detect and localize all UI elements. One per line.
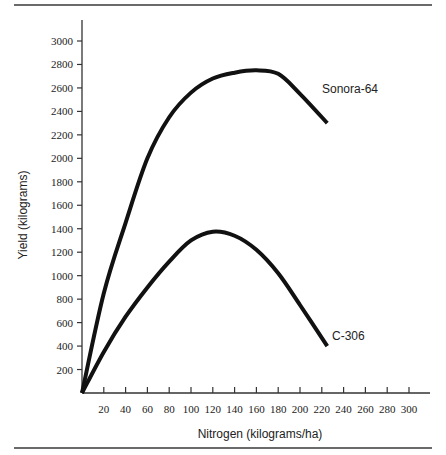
x-tick-label: 40 — [120, 403, 132, 415]
y-tick-label: 600 — [57, 317, 74, 329]
y-tick-label: 2200 — [51, 129, 74, 141]
y-tick-label: 1200 — [51, 246, 74, 258]
x-tick-label: 80 — [164, 403, 176, 415]
y-tick-label: 2000 — [51, 152, 74, 164]
x-tick-label: 140 — [226, 403, 243, 415]
x-tick-label: 160 — [248, 403, 265, 415]
y-tick-label: 800 — [57, 293, 74, 305]
y-axis-ticks: 2004006008001000120014001600180020002200… — [51, 35, 82, 376]
x-tick-label: 180 — [270, 403, 287, 415]
x-axis-ticks: 2040608010012014016018020022024026028030… — [98, 387, 417, 415]
yield-chart: 2004006008001000120014001600180020002200… — [0, 0, 446, 455]
x-tick-label: 240 — [335, 403, 352, 415]
y-tick-label: 1400 — [51, 223, 74, 235]
axes — [82, 20, 430, 393]
y-tick-label: 1600 — [51, 199, 74, 211]
series-label-sonora-64: Sonora-64 — [322, 82, 378, 96]
x-tick-label: 100 — [183, 403, 200, 415]
y-tick-label: 2600 — [51, 82, 74, 94]
x-tick-label: 300 — [401, 403, 418, 415]
x-tick-label: 20 — [98, 403, 110, 415]
x-tick-label: 220 — [314, 403, 331, 415]
y-tick-label: 400 — [57, 340, 74, 352]
x-tick-label: 200 — [292, 403, 309, 415]
x-tick-label: 120 — [205, 403, 222, 415]
curves — [82, 70, 327, 393]
x-axis-title: Nitrogen (kilograms/ha) — [198, 427, 323, 441]
y-tick-label: 1000 — [51, 270, 74, 282]
y-tick-label: 2400 — [51, 105, 74, 117]
series-label-c-306: C-306 — [332, 329, 365, 343]
curve-c-306 — [82, 231, 327, 393]
x-tick-label: 260 — [357, 403, 374, 415]
y-tick-label: 1800 — [51, 176, 74, 188]
x-tick-label: 280 — [379, 403, 396, 415]
x-tick-label: 60 — [142, 403, 154, 415]
y-tick-label: 2800 — [51, 58, 74, 70]
y-axis-title: Yield (kilograms) — [16, 171, 30, 260]
y-tick-label: 3000 — [51, 35, 74, 47]
y-tick-label: 200 — [57, 364, 74, 376]
